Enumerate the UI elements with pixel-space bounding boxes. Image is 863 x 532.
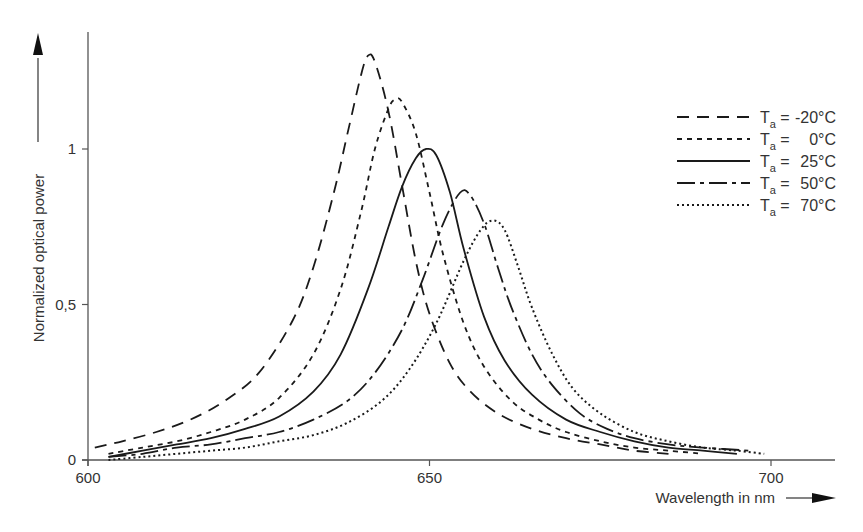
legend: Ta = -20°CTa = 0°CTa = 25°CTa = 50°CTa =…: [677, 109, 836, 218]
legend-temperature: 25°C: [800, 153, 836, 170]
x-tick-label: 700: [758, 469, 783, 486]
x-axis-arrow-icon: [812, 493, 836, 503]
series-line-2: [109, 149, 737, 457]
series-line-3: [109, 190, 751, 457]
y-axis-ticks: 00,51: [55, 140, 88, 468]
y-axis-arrow-icon: [33, 33, 43, 55]
legend-label: Ta =: [760, 175, 790, 196]
y-tick-label: 1: [68, 140, 76, 157]
x-tick-label: 600: [75, 469, 100, 486]
legend-label: Ta =: [760, 153, 790, 174]
legend-temperature: -20°C: [795, 109, 836, 126]
series-line-4: [109, 221, 765, 461]
legend-temperature: 0°C: [809, 131, 836, 148]
y-axis-title-group: Normalized optical power: [30, 33, 47, 342]
y-axis-title: Normalized optical power: [30, 174, 47, 342]
legend-temperature: 70°C: [800, 197, 836, 214]
series-line-0: [95, 54, 669, 454]
legend-label: Ta =: [760, 197, 790, 218]
x-axis-title: Wavelength in nm: [655, 489, 775, 506]
series-line-1: [109, 98, 703, 454]
x-tick-label: 650: [417, 469, 442, 486]
x-axis-title-group: Wavelength in nm: [655, 489, 836, 506]
legend-temperature: 50°C: [800, 175, 836, 192]
chart: 600650700 00,51 Normalized optical power…: [0, 0, 863, 532]
legend-label: Ta =: [760, 131, 790, 152]
legend-label: Ta =: [760, 109, 790, 130]
y-tick-label: 0: [68, 451, 76, 468]
x-axis-ticks: 600650700: [75, 460, 783, 486]
y-tick-label: 0,5: [55, 296, 76, 313]
series-lines: [95, 54, 764, 460]
